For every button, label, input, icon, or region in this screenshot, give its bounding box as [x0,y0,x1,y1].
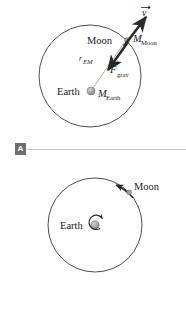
gravity-label: F grav [109,61,129,78]
gravity-overbar-arrowhead [117,61,119,65]
gravity-subscript: grav [117,71,129,78]
moon-label-b: Moon [134,181,160,192]
velocity-overbar-arrowhead [148,6,150,10]
earth-mass-subscript: Earth [106,94,121,101]
panel-key-a: A [15,143,26,155]
panel-b: Moon Earth B [0,160,186,314]
gravity-symbol: F [109,64,117,75]
moon-mass-subscript: Moon [141,39,157,46]
moon-mass-label: M Moon [132,33,157,46]
radius-symbol: r [79,54,82,63]
orbit-radius-line [93,43,124,88]
panel-a-diagram: v Moon M Moon r EM F grav [0,0,186,160]
moon-body-b [127,190,131,194]
panel-b-diagram: Moon Earth [0,160,186,314]
moon-label-a: Moon [87,35,113,46]
velocity-label: v [141,6,151,18]
velocity-symbol: v [142,7,147,18]
earth-label-b: Earth [60,220,83,231]
earth-body-a [87,87,95,95]
panel-a: v Moon M Moon r EM F grav [0,0,186,160]
radius-subscript: EM [82,58,93,65]
panel-divider-a [27,149,186,150]
earth-mass-label: M Earth [97,88,121,101]
orbit-radius-label: r EM [79,54,93,65]
earth-label-a: Earth [57,86,80,97]
physics-figure-earth-moon: v Moon M Moon r EM F grav [0,0,186,314]
